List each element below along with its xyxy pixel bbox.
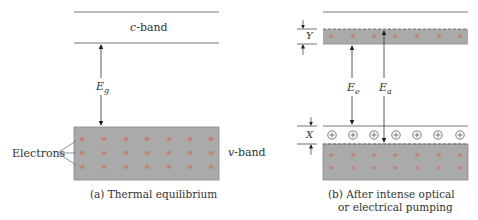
gap-energy-label: Eg [96,81,109,95]
caption-b: (b) After intense optical or electrical … [328,188,455,214]
conduction-band-label: c-band [130,22,168,33]
electrons-label: Electrons [12,148,65,159]
valence-band-label: v-band [228,147,266,158]
panel-a [59,12,219,180]
lower-filled-band [323,144,468,180]
y-region-label: Y [306,31,313,41]
caption-a: (a) Thermal equilibrium [90,188,217,201]
ea-energy-label: Ea [379,82,392,96]
band-diagram [0,0,478,220]
panel-b [297,12,468,180]
x-region-label: X [306,130,313,140]
ee-energy-label: Ee [347,82,360,96]
